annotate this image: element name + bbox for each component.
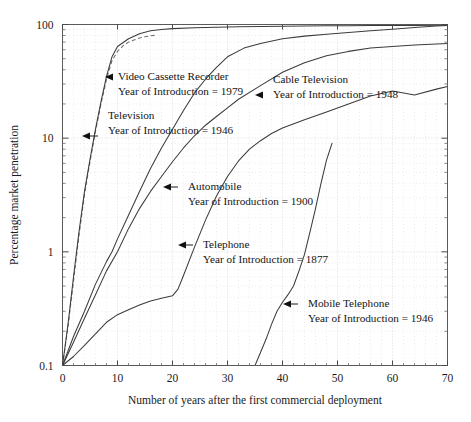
x-tick-label: 60 [387, 372, 399, 384]
series-annotations: Video Cassette RecorderYear of Introduct… [82, 70, 434, 324]
annotation-label-year: Year of Introduction = 1900 [188, 195, 314, 207]
annotation-arrow-icon [255, 91, 263, 98]
annotation-label-name: Telephone [203, 238, 249, 250]
annotation-label-name: Mobile Telephone [308, 297, 389, 309]
y-tick-label: 1 [48, 246, 54, 258]
technology-adoption-chart-figure: 010203040506070 0.1110100 Video Cassette… [0, 0, 471, 422]
annotation-label-year: Year of Introduction = 1946 [308, 312, 434, 324]
y-tick-labels: 0.1110100 [36, 19, 54, 372]
x-tick-label: 0 [60, 372, 66, 384]
x-tick-label: 40 [277, 372, 289, 384]
annotation-vcr: Video Cassette RecorderYear of Introduct… [105, 70, 244, 97]
y-axis-title: Percentage market penetration [8, 125, 21, 265]
x-tick-label: 70 [442, 372, 454, 384]
annotation-label-year: Year of Introduction = 1946 [108, 124, 234, 136]
y-tick-label: 10 [42, 132, 54, 144]
annotation-cable-television: Cable TelevisionYear of Introduction = 1… [255, 73, 399, 100]
x-tick-label: 20 [167, 372, 179, 384]
y-tick-label: 0.1 [39, 360, 54, 372]
x-tick-label: 10 [112, 372, 124, 384]
annotation-label-name: Cable Television [273, 73, 349, 85]
annotation-television: TelevisionYear of Introduction = 1946 [82, 109, 234, 140]
annotation-arrow-icon [283, 300, 291, 307]
chart-canvas: 010203040506070 0.1110100 Video Cassette… [0, 0, 471, 422]
annotation-label-year: Year of Introduction = 1948 [273, 88, 399, 100]
x-axis-title: Number of years after the first commerci… [128, 394, 383, 407]
x-tick-labels: 010203040506070 [60, 372, 454, 384]
annotation-label-name: Automobile [188, 180, 241, 192]
annotation-label-year: Year of Introduction = 1877 [203, 253, 329, 265]
annotation-arrow-icon [163, 183, 171, 190]
annotation-telephone: TelephoneYear of Introduction = 1877 [178, 238, 329, 265]
x-tick-label: 50 [332, 372, 344, 384]
annotation-arrow-icon [82, 132, 90, 139]
annotation-mobile-telephone: Mobile TelephoneYear of Introduction = 1… [283, 297, 434, 324]
annotation-label-name: Television [108, 109, 155, 121]
x-tick-label: 30 [222, 372, 234, 384]
annotation-arrow-icon [178, 241, 186, 248]
annotation-label-name: Video Cassette Recorder [118, 70, 229, 82]
y-tick-label: 100 [36, 19, 54, 31]
annotation-label-year: Year of Introduction = 1979 [118, 85, 244, 97]
